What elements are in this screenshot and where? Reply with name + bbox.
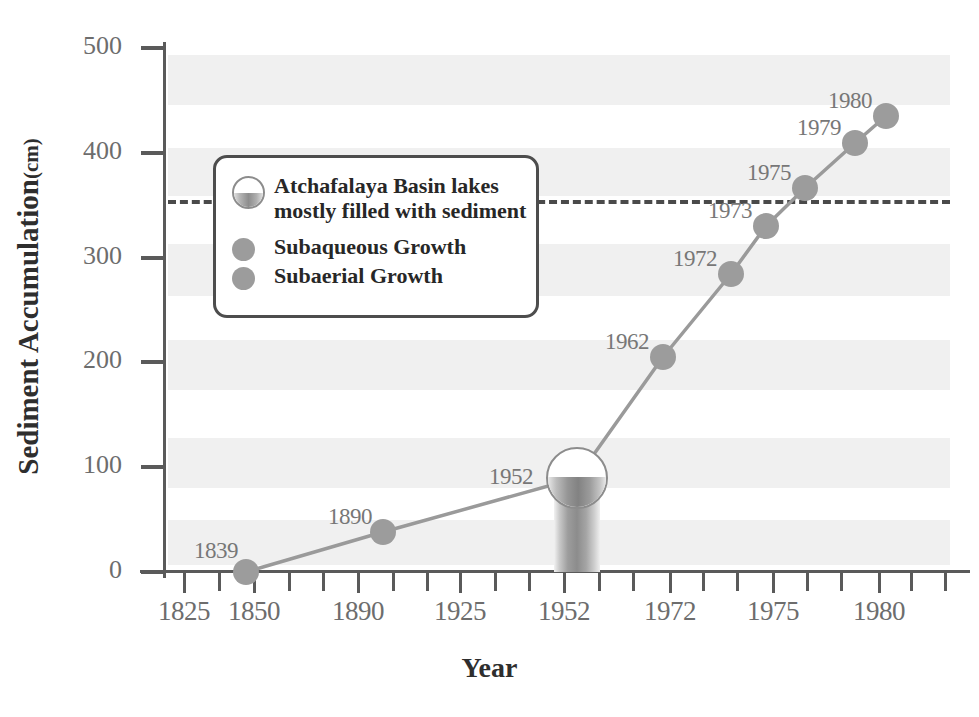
x-axis-tick-label: 1952 xyxy=(504,596,624,627)
sediment-fill xyxy=(234,193,263,208)
y-axis-tick-label: 400 xyxy=(62,138,122,164)
legend-label-subaqueous: Subaqueous Growth xyxy=(274,234,466,260)
data-point-1979[interactable] xyxy=(842,130,868,156)
y-axis-tick-label: 100 xyxy=(62,452,122,478)
chart-canvas: 5004003002001000 18251850189019251952197… xyxy=(0,0,979,717)
data-point-label-1972: 1972 xyxy=(673,246,717,272)
x-axis-minor-tick xyxy=(702,573,705,591)
x-axis-tick-label: 1850 xyxy=(194,596,314,627)
data-point-label-1980: 1980 xyxy=(828,88,872,114)
x-axis-tick xyxy=(772,573,775,593)
x-axis-tick xyxy=(459,573,462,593)
data-point-1973[interactable] xyxy=(753,213,779,239)
data-point-1975[interactable] xyxy=(792,175,818,201)
x-axis-tick-label: 1980 xyxy=(819,596,939,627)
y-axis-tick-label: 0 xyxy=(62,557,122,583)
gray-dot-icon xyxy=(232,267,255,290)
x-axis-minor-tick xyxy=(392,573,395,591)
legend-item-basin-lakes[interactable]: Atchafalaya Basin lakes mostly filled wi… xyxy=(216,172,536,224)
x-axis-tick xyxy=(669,573,672,593)
x-axis-minor-tick xyxy=(288,573,291,591)
x-axis-minor-tick xyxy=(426,573,429,591)
x-axis-minor-tick xyxy=(218,573,221,591)
data-point-label-1975: 1975 xyxy=(747,160,791,186)
legend-label-subaerial: Subaerial Growth xyxy=(274,263,443,289)
data-point-1962[interactable] xyxy=(650,344,676,370)
background-band xyxy=(168,340,950,390)
x-axis-tick-label: 1925 xyxy=(400,596,520,627)
legend-label-basin-lakes: Atchafalaya Basin lakes mostly filled wi… xyxy=(274,172,526,224)
y-axis-tick xyxy=(141,151,163,155)
x-axis-minor-tick xyxy=(840,573,843,591)
x-axis-minor-tick xyxy=(806,573,809,591)
x-axis-minor-tick xyxy=(910,573,913,591)
y-axis-tick-label: 300 xyxy=(62,243,122,269)
y-axis-title-main: Sediment Accumulation xyxy=(12,179,44,475)
data-point-label-1839: 1839 xyxy=(194,538,238,564)
y-axis-title: Sediment Accumulation(cm) xyxy=(12,47,45,567)
y-axis-title-unit: (cm) xyxy=(19,138,43,179)
data-point-label-1973: 1973 xyxy=(708,198,752,224)
gray-dot-icon xyxy=(232,238,255,261)
legend-swatch-wrap xyxy=(232,172,274,209)
x-axis-minor-tick xyxy=(528,573,531,591)
sediment-core-icon xyxy=(232,176,265,209)
y-axis-tick xyxy=(141,256,163,260)
x-axis-minor-tick xyxy=(736,573,739,591)
chart-legend[interactable]: Atchafalaya Basin lakes mostly filled wi… xyxy=(213,155,539,318)
x-axis-minor-tick xyxy=(494,573,497,591)
legend-swatch-wrap xyxy=(232,263,274,290)
y-axis-tick xyxy=(141,46,163,50)
x-axis-tick-label: 1975 xyxy=(713,596,833,627)
y-axis-tick xyxy=(141,465,163,469)
y-axis-tick xyxy=(141,360,163,364)
x-axis-minor-tick xyxy=(944,573,947,591)
data-point-1980[interactable] xyxy=(873,103,899,129)
y-axis-tick xyxy=(141,570,163,574)
x-axis-tick xyxy=(878,573,881,593)
data-point-label-1979: 1979 xyxy=(797,115,841,141)
x-axis-minor-tick xyxy=(632,573,635,591)
legend-item-subaerial[interactable]: Subaerial Growth xyxy=(216,263,536,290)
data-point-label-1890: 1890 xyxy=(328,504,372,530)
sediment-core-marker-1952[interactable] xyxy=(546,447,608,509)
data-point-1972[interactable] xyxy=(718,261,744,287)
data-point-1890[interactable] xyxy=(370,519,396,545)
y-axis-line xyxy=(163,42,166,578)
x-axis-tick xyxy=(183,573,186,593)
y-axis-tick-label: 500 xyxy=(62,33,122,59)
legend-swatch-wrap xyxy=(232,234,274,261)
x-axis-tick xyxy=(563,573,566,593)
y-axis-tick-label: 200 xyxy=(62,347,122,373)
legend-item-subaqueous[interactable]: Subaqueous Growth xyxy=(216,234,536,261)
x-axis-title: Year xyxy=(0,652,979,684)
legend-label-line-1: Atchafalaya Basin lakes xyxy=(274,173,526,198)
sediment-fill xyxy=(548,477,606,507)
data-point-label-1962: 1962 xyxy=(605,329,649,355)
x-axis-tick xyxy=(357,573,360,593)
legend-label-line-2: mostly filled with sediment xyxy=(274,198,526,223)
x-axis-tick-label: 1972 xyxy=(610,596,730,627)
x-axis-minor-tick xyxy=(598,573,601,591)
x-axis-minor-tick xyxy=(322,573,325,591)
data-point-label-1952: 1952 xyxy=(489,464,533,490)
